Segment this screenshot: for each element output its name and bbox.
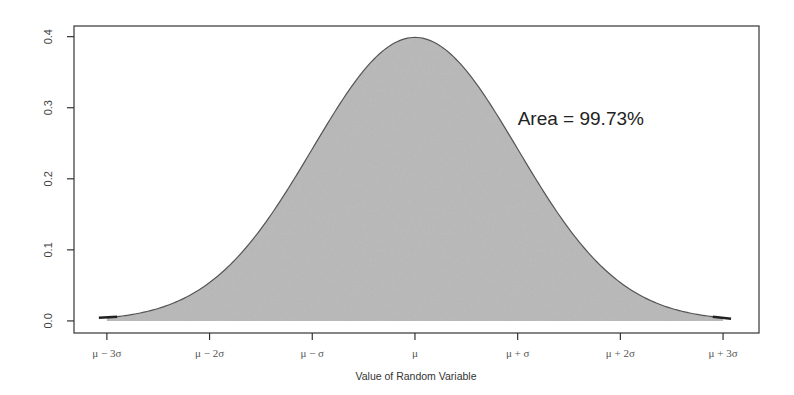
y-tick-label: 0.0: [42, 313, 54, 328]
x-tick-label: μ − σ: [300, 347, 324, 359]
x-axis: μ − 3σμ − 2σμ − σμμ + σμ + 2σμ + 3σ: [92, 333, 737, 359]
x-tick-label: μ: [412, 347, 418, 359]
y-tick-label: 0.2: [42, 171, 54, 186]
normal-distribution-chart: 0.00.10.20.30.4 μ − 3σμ − 2σμ − σμμ + σμ…: [0, 0, 794, 395]
shaded-area: [99, 37, 731, 321]
x-tick-label: μ − 3σ: [92, 347, 121, 359]
y-tick-label: 0.4: [42, 29, 54, 44]
y-tick-label: 0.3: [42, 100, 54, 115]
x-tick-label: μ + 2σ: [606, 347, 635, 359]
left-tail-mark: [99, 317, 117, 318]
x-axis-title: Value of Random Variable: [355, 370, 476, 382]
y-tick-label: 0.1: [42, 242, 54, 257]
area-annotation: Area = 99.73%: [518, 108, 644, 129]
x-tick-label: μ − 2σ: [195, 347, 224, 359]
x-tick-label: μ + 3σ: [709, 347, 738, 359]
density-fill: [107, 37, 723, 321]
x-tick-label: μ + σ: [506, 347, 530, 359]
y-axis: 0.00.10.20.30.4: [42, 29, 74, 328]
